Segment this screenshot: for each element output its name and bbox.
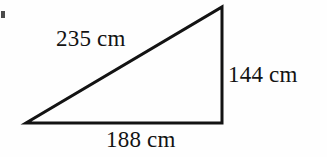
horizontal-leg-length-label: 188 cm [106, 128, 176, 151]
triangle-figure: 235 cm 144 cm 188 cm [0, 0, 327, 157]
hypotenuse-length-label: 235 cm [56, 27, 126, 50]
triangle-outline [26, 7, 222, 123]
scan-artifact-mark [1, 11, 5, 18]
vertical-leg-length-label: 144 cm [228, 63, 298, 86]
